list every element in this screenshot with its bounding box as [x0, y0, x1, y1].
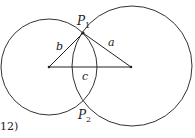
p1-label: P1: [76, 14, 90, 30]
side-b-line: [49, 33, 83, 67]
intersecting-circles-diagram: P1 P2 b a c 12): [0, 0, 195, 138]
side-a-line: [83, 33, 131, 67]
right-center-point: [130, 66, 133, 69]
p2-label: P2: [77, 108, 91, 124]
p1-point: [82, 32, 85, 35]
side-b-label: b: [56, 40, 63, 53]
left-center-point: [48, 66, 51, 69]
figure-number-label: 12): [0, 120, 18, 133]
side-c-label: c: [82, 70, 88, 83]
side-a-label: a: [108, 36, 115, 49]
